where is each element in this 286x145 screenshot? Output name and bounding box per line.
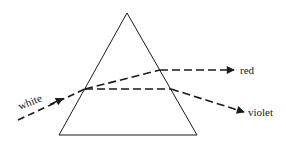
prism-diagram: white red violet: [0, 0, 286, 145]
prism-triangle: [59, 13, 197, 135]
red-ray-inside: [85, 70, 160, 89]
label-red: red: [240, 64, 255, 76]
white-ray-arrow: [50, 99, 63, 105]
label-violet: violet: [248, 106, 273, 118]
diagram-svg: white red violet: [0, 0, 286, 145]
label-white: white: [16, 92, 43, 112]
